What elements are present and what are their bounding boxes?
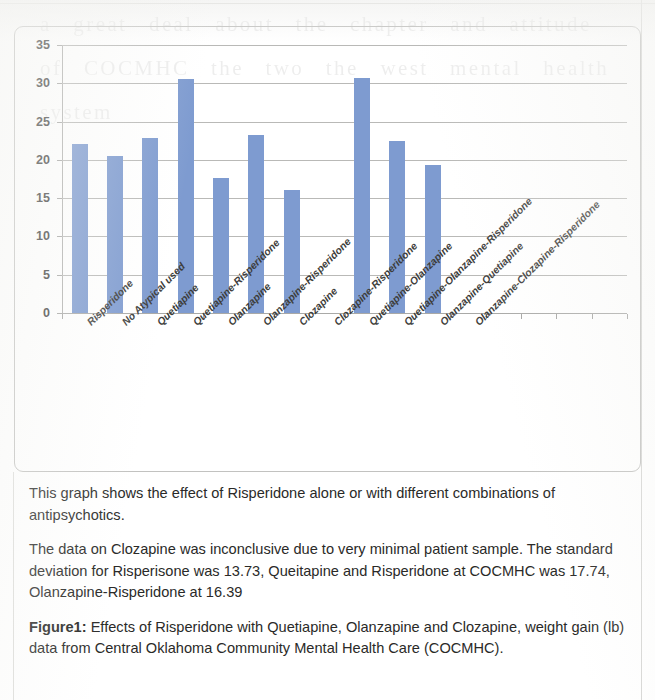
bar <box>354 78 370 313</box>
y-axis-tick-label: 15 <box>22 191 50 205</box>
x-axis-label: Olanzapine-Quetiapine <box>438 320 446 328</box>
y-axis-tick-mark <box>57 160 62 161</box>
x-axis-tick-mark <box>62 314 63 319</box>
x-axis-tick-mark <box>627 314 628 319</box>
y-axis-tick-mark <box>57 122 62 123</box>
page-right-edge-rule <box>641 0 642 700</box>
y-axis-tick-mark <box>57 198 62 199</box>
bar <box>72 144 88 313</box>
x-axis-label: Clozapine <box>297 320 305 328</box>
y-axis-tick-mark <box>57 83 62 84</box>
x-axis-label: No Atypical used <box>120 320 128 328</box>
plot-area <box>62 45 627 313</box>
x-axis-label: Clozapine-Risperidone <box>332 320 340 328</box>
y-axis-tick-mark <box>57 45 62 46</box>
y-axis-tick-label: 30 <box>22 76 50 90</box>
bar-chart: 05101520253035RisperidoneNo Atypical use… <box>0 0 655 470</box>
y-axis-tick-label: 10 <box>22 229 50 243</box>
caption-paragraph-2: The data on Clozapine was inconclusive d… <box>29 539 629 604</box>
figure-number-label: Figure1: <box>29 619 87 635</box>
x-axis-label: Risperidone <box>85 320 93 328</box>
figure-caption-text: Effects of Risperidone with Quetiapine, … <box>29 619 624 657</box>
x-axis-tick-mark <box>592 314 593 319</box>
page-left-edge-rule <box>13 472 14 700</box>
bar <box>178 79 194 313</box>
y-axis-tick-mark <box>57 236 62 237</box>
y-axis-tick-label: 0 <box>22 306 50 320</box>
x-axis-label: Olanzapine <box>226 320 234 328</box>
page-top-rule <box>0 3 655 4</box>
gridline <box>62 83 627 84</box>
x-axis-label: Quetiapine-Olanzapine <box>367 320 375 328</box>
y-axis-tick-label: 5 <box>22 268 50 282</box>
caption-paragraph-1: This graph shows the effect of Risperido… <box>29 483 629 526</box>
figure-caption: Figure1: Effects of Risperidone with Que… <box>29 617 629 660</box>
x-axis-label: Olanzapine-Risperidone <box>261 320 269 328</box>
x-axis-label: Olanzapine-Clozapine-Risperidone <box>473 320 481 328</box>
gridline <box>62 122 627 123</box>
x-axis-label: Quetiapine-Olanzapine-Risperidone <box>402 320 410 328</box>
y-axis-tick-mark <box>57 275 62 276</box>
y-axis-tick-label: 25 <box>22 115 50 129</box>
x-axis-tick-mark <box>521 314 522 319</box>
gridline <box>62 45 627 46</box>
y-axis-tick-label: 20 <box>22 153 50 167</box>
figure-caption-block: This graph shows the effect of Risperido… <box>29 483 629 660</box>
x-axis-label: Quetiapine-Risperidone <box>191 320 199 328</box>
y-axis-tick-label: 35 <box>22 38 50 52</box>
x-axis-tick-mark <box>556 314 557 319</box>
x-axis-label: Quetiapine <box>155 320 163 328</box>
